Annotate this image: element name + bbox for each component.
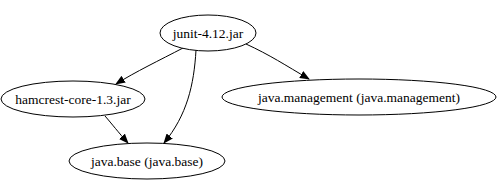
dependency-diagram: junit-4.12.jar hamcrest-core-1.3.jar jav… [0,0,498,190]
node-java-management[interactable]: java.management (java.management) [222,79,496,115]
edge-junit-to-management [246,44,309,79]
node-junit[interactable]: junit-4.12.jar [160,15,256,51]
edge-junit-to-hamcrest [116,48,183,84]
node-label-hamcrest: hamcrest-core-1.3.jar [15,92,131,107]
node-label-junit: junit-4.12.jar [172,26,244,41]
node-hamcrest[interactable]: hamcrest-core-1.3.jar [1,81,145,117]
node-label-java-base: java.base (java.base) [90,154,203,169]
node-label-java-management: java.management (java.management) [257,90,460,105]
edge-hamcrest-to-base [105,116,128,143]
node-java-base[interactable]: java.base (java.base) [69,143,225,179]
edge-junit-to-base [164,50,196,143]
